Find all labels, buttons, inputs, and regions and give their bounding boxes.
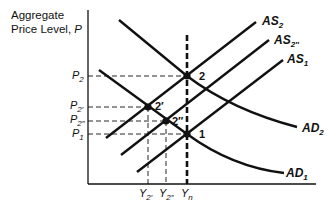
equilibrium-point-1: [183, 130, 190, 137]
point-label-2: 2: [199, 70, 205, 82]
ad2-curve: [119, 20, 297, 127]
as1-label: AS1: [286, 52, 309, 68]
point-label-1: 1: [199, 128, 205, 140]
output-tick-yn: Yn: [181, 187, 193, 202]
output-tick-y2pp: Y2″: [159, 187, 175, 202]
price-tick-p1: P1: [72, 127, 84, 142]
price-tick-p2: P2: [72, 69, 84, 84]
price-tick-p2p: P2′: [70, 99, 84, 114]
equilibrium-point-2p: [144, 103, 151, 110]
point-label-2pp: 2″: [172, 115, 184, 127]
equilibrium-point-2: [183, 72, 190, 79]
ad1-label: AD1: [285, 166, 308, 182]
equilibrium-point-2pp: [162, 117, 169, 124]
ad2-label: AD2: [301, 121, 324, 137]
aggregate-supply-demand-diagram: Aggregate Price Level, P 2 2′ 2″ 1 AS2 A…: [0, 0, 328, 210]
y-axis-title: Aggregate: [11, 9, 64, 21]
as2-label: AS2: [261, 14, 284, 30]
price-tick-p2pp: P2″: [70, 113, 86, 128]
as2pp-label: AS2″: [273, 33, 300, 49]
output-tick-y2p: Y2′: [139, 187, 153, 202]
y-axis-title-line2: Price Level, P: [11, 23, 82, 35]
as2pp-curve: [121, 40, 269, 155]
point-label-2p: 2′: [155, 100, 164, 112]
